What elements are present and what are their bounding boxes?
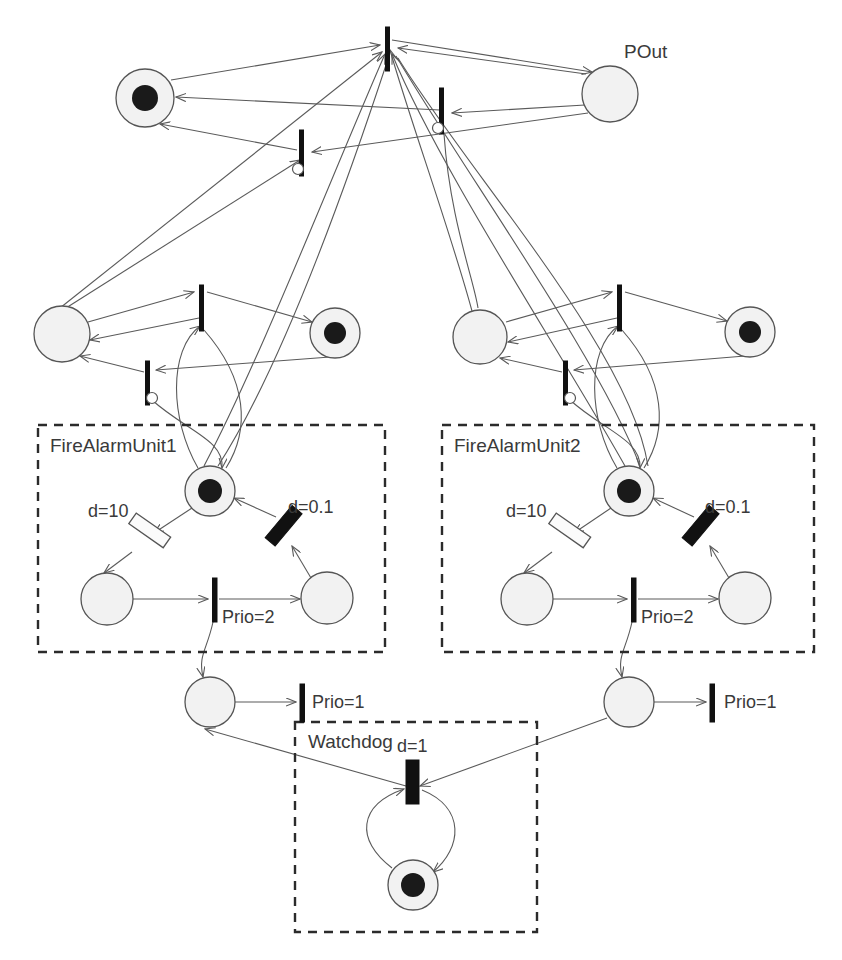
token — [324, 322, 346, 344]
place-unit1-left[interactable] — [81, 573, 133, 625]
place-bottom-right[interactable] — [604, 677, 654, 727]
arc-midleft1-to-mid1up — [88, 292, 194, 322]
place-top-left[interactable] — [116, 69, 174, 127]
arc-mid1down-to-u1top — [152, 400, 222, 468]
place-unit1-right[interactable] — [301, 572, 353, 624]
group-unit1-label: FireAlarmUnit1 — [50, 435, 177, 456]
transition-unit2-d10[interactable] — [549, 513, 591, 548]
arc-mid2down-to-u2top — [570, 400, 640, 468]
place-unit1-top[interactable] — [185, 466, 235, 516]
transition-watchdog-d1-label: d=1 — [397, 736, 428, 756]
transition-mid1-up[interactable] — [200, 285, 204, 331]
arc-u1top-curve-b — [218, 56, 389, 466]
arc-mid1down-to-midleft1 — [80, 356, 144, 372]
arc-d01-to-u1top — [234, 498, 276, 517]
transition-unit1-d10-label: d=10 — [88, 501, 129, 521]
arc-d10-to-u2left — [524, 552, 552, 573]
arc-pout-to-topleftrans — [312, 113, 588, 152]
inhibitor-arc-dot-mid1-down — [147, 393, 158, 404]
place-pout[interactable] — [582, 66, 638, 122]
place-layer: POut — [34, 41, 775, 910]
arc-mid1up-to-midright1 — [207, 292, 312, 322]
arc-midleft1-to-topleftrans — [66, 160, 300, 308]
transition-unit2-prio2-label: Prio=2 — [641, 607, 694, 627]
arc-mid2up-to-midleft2 — [508, 318, 617, 342]
arc-mid2-loop-outer — [622, 330, 659, 468]
arc-mid2down-to-midleft2 — [500, 358, 562, 372]
arc-topleftrans-to-topleftplace — [160, 124, 297, 150]
transition-prio1-right[interactable] — [710, 684, 715, 722]
arc-maintrans-to-pout — [392, 40, 592, 72]
arc-mid1-loop-outer — [204, 330, 241, 468]
arc-mid2up-to-midright2 — [625, 292, 727, 321]
inhibitor-arc-dot-top-right — [433, 123, 444, 134]
inhibitor-arc-dot-mid2-down — [565, 393, 576, 404]
arc-u1right-to-d01 — [292, 546, 311, 578]
transition-unit2-prio2[interactable] — [632, 578, 637, 622]
group-unit2-label: FireAlarmUnit2 — [454, 435, 581, 456]
place-pout-label: POut — [624, 41, 668, 62]
transition-prio1-left-label: Prio=1 — [312, 692, 365, 712]
arc-u1top-to-maintrans-a — [204, 54, 385, 466]
arc-watchdogplace-to-trans — [367, 789, 404, 868]
token — [401, 873, 425, 897]
place-watchdog[interactable] — [388, 860, 438, 910]
place-mid-left-1[interactable] — [34, 306, 90, 362]
arc-midright2-to-mid2down — [574, 356, 745, 370]
arc-d10-to-u1left — [104, 552, 132, 573]
token — [132, 85, 158, 111]
group-layer: FireAlarmUnit1 FireAlarmUnit2 Watchdog — [38, 425, 814, 932]
token — [739, 321, 761, 343]
place-mid-left-2[interactable] — [453, 310, 507, 364]
transition-unit1-prio2-label: Prio=2 — [222, 607, 275, 627]
token — [617, 479, 641, 503]
transition-watchdog-d1[interactable] — [406, 760, 419, 804]
place-mid-right-1[interactable] — [310, 308, 360, 358]
arc-midleft2-to-mid2up — [506, 292, 612, 322]
arc-u1prio2-to-bottomleft — [202, 622, 213, 677]
arc-toprighttrans-to-topleft — [176, 97, 440, 110]
arc-mid1up-to-midleft1 — [90, 318, 199, 340]
token — [198, 479, 222, 503]
arc-u2right-to-d01 — [710, 546, 729, 578]
place-mid-right-2[interactable] — [725, 307, 775, 357]
arc-watchdogtrans-to-place — [422, 790, 455, 872]
arc-pout-to-toprighttrans — [452, 105, 585, 113]
transition-unit1-prio2[interactable] — [213, 578, 218, 622]
arc-topleft-to-maintrans — [171, 45, 380, 80]
place-bottom-left[interactable] — [185, 677, 235, 727]
place-unit2-left[interactable] — [501, 573, 553, 625]
arc-u2prio2-to-bottomright — [621, 622, 632, 677]
arc-u2top-to-maintrans-a — [392, 54, 625, 466]
arc-pout-to-maintrans — [398, 48, 586, 74]
place-unit2-top[interactable] — [604, 466, 654, 516]
petri-net-canvas: FireAlarmUnit1 FireAlarmUnit2 Watchdog P… — [0, 0, 842, 960]
transition-prio1-right-label: Prio=1 — [724, 692, 777, 712]
transition-unit1-d01-label: d=0.1 — [288, 497, 334, 517]
place-unit2-right[interactable] — [719, 572, 771, 624]
group-watchdog-label: Watchdog — [308, 731, 393, 752]
arc-d01-to-u2top — [653, 498, 694, 517]
transition-mid2-up[interactable] — [618, 285, 622, 331]
inhibitor-arc-dot-top-left — [293, 164, 304, 175]
transition-top-main[interactable] — [386, 27, 390, 71]
transition-prio1-left[interactable] — [300, 684, 305, 722]
arc-bottomright-to-watchdogtrans — [420, 718, 607, 786]
arc-u1top-to-mid1up — [177, 326, 201, 468]
arc-midleft1-to-maintrans — [60, 52, 382, 308]
arc-midright1-to-mid1down — [156, 357, 330, 370]
transition-unit2-d10-label: d=10 — [506, 501, 547, 521]
transition-unit2-d01-label: d=0.1 — [705, 497, 751, 517]
petri-net-diagram: FireAlarmUnit1 FireAlarmUnit2 Watchdog P… — [0, 0, 842, 960]
transition-unit1-d10[interactable] — [129, 513, 171, 548]
arc-midleft2-to-maintrans — [390, 50, 472, 311]
